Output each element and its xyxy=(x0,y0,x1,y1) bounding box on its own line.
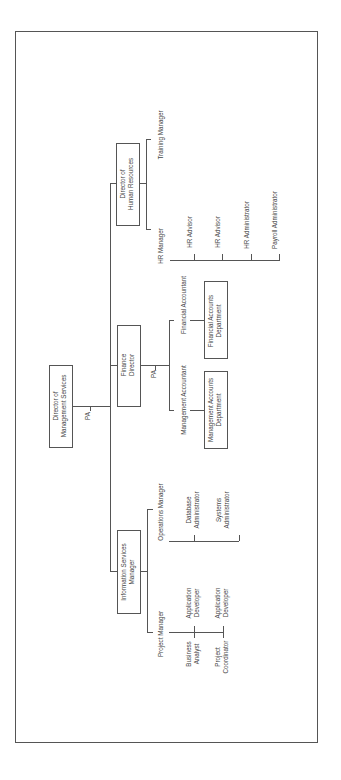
hr-tick-3 xyxy=(251,254,252,260)
business-analyst-2: Analyst xyxy=(193,636,201,672)
is-bracket-bot xyxy=(147,632,153,633)
training-manager: Training Manager xyxy=(157,104,165,166)
hr-tick-1 xyxy=(194,254,195,260)
app-dev-1a: Application xyxy=(185,583,193,623)
hr-tick-2 xyxy=(222,254,223,260)
is-connector xyxy=(110,571,117,572)
hr-director-1: Director of xyxy=(119,146,127,222)
management-accountant: Management Accountant xyxy=(180,360,188,440)
systems-admin-2: Administrator xyxy=(223,490,231,530)
is-manager-2: Manager xyxy=(128,534,136,610)
project-coordinator-2: Coordinator xyxy=(222,635,230,679)
systems-admin-1: Systems xyxy=(215,490,223,530)
hr-tick-4 xyxy=(279,254,280,260)
is-manager-1: Information Services xyxy=(120,534,128,610)
app-dev-2a: Application xyxy=(214,583,222,623)
ops-tick-1 xyxy=(194,535,195,541)
finance-director-1: Finance xyxy=(120,345,128,385)
business-analyst-1: Business xyxy=(185,636,193,672)
pm-staff-line xyxy=(169,632,224,633)
ops-staff-line xyxy=(169,541,239,542)
hr-bracket-top xyxy=(146,139,151,140)
root-title-1: Director of xyxy=(52,366,60,446)
operations-manager: Operations Manager xyxy=(157,479,165,545)
ops-tick-2 xyxy=(239,535,240,541)
ma-dept-1: Management Accounts xyxy=(207,374,215,446)
ma-dept-2: Department xyxy=(215,374,223,446)
root-title-2: Management Services xyxy=(60,366,68,446)
fin-dept-conn-2 xyxy=(190,410,204,411)
fin-connector xyxy=(110,365,117,366)
hr-advisor-2: HR Advisor xyxy=(214,214,222,250)
fin-dept-conn-1 xyxy=(190,320,204,321)
project-manager: Project Manager xyxy=(157,608,165,660)
trunk-line xyxy=(110,183,111,572)
database-admin-1: Database xyxy=(185,490,193,530)
database-admin-2: Administrator xyxy=(193,490,201,530)
hr-director-2: Human Resources xyxy=(127,146,135,222)
hr-administrator: HR Administrator xyxy=(243,198,251,252)
finance-director-2: Director xyxy=(128,345,136,385)
app-dev-2b: Developer xyxy=(222,583,230,623)
root-connector xyxy=(72,406,110,407)
hr-bracket-bot xyxy=(146,229,151,230)
payroll-administrator: Payroll Administrator xyxy=(271,188,279,252)
fin-bracket xyxy=(169,320,170,410)
is-bracket xyxy=(147,509,148,632)
fin-pa-label: PA xyxy=(150,368,158,380)
is-bracket-top xyxy=(147,509,153,510)
hr-bracket xyxy=(146,139,147,229)
hr-manager: HR Manager xyxy=(157,226,165,266)
fin-bracket-top xyxy=(169,320,174,321)
root-pa-label: PA xyxy=(84,410,92,422)
financial-accountant: Financial Accountant xyxy=(180,272,188,338)
fin-bracket-bot xyxy=(169,410,174,411)
project-coordinator-1: Project xyxy=(214,635,222,679)
hr-advisor-1: HR Advisor xyxy=(186,214,194,250)
fa-dept-1: Financial Accounts xyxy=(207,288,215,354)
app-dev-1b: Developer xyxy=(193,583,201,623)
fa-dept-2: Department xyxy=(215,288,223,354)
hr-staff-line xyxy=(170,260,280,261)
